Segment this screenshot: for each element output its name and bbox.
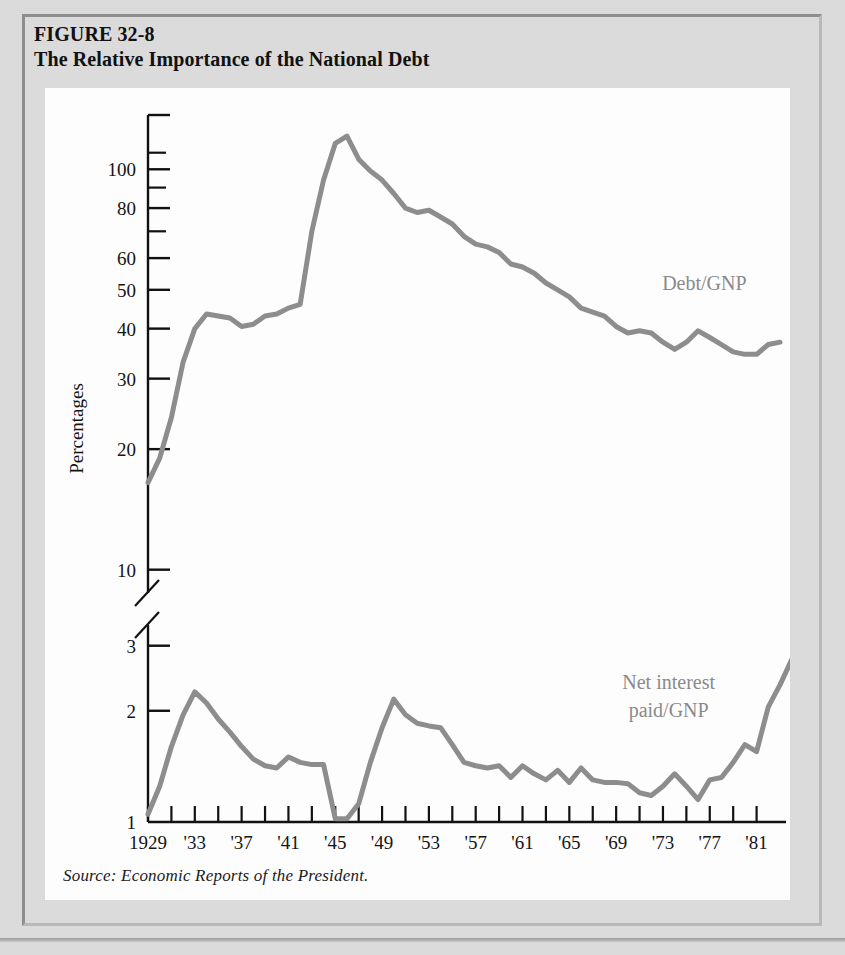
svg-text:10: 10 — [117, 560, 136, 581]
page-bottom-rule — [0, 938, 845, 942]
svg-text:20: 20 — [117, 439, 136, 460]
svg-text:'45: '45 — [324, 832, 346, 853]
svg-text:'37: '37 — [230, 832, 252, 853]
svg-text:2: 2 — [127, 701, 137, 722]
svg-text:3: 3 — [127, 636, 137, 657]
svg-text:100: 100 — [108, 159, 137, 180]
svg-text:'73: '73 — [652, 832, 674, 853]
svg-text:'77: '77 — [699, 832, 721, 853]
svg-text:'61: '61 — [511, 832, 533, 853]
svg-text:'65: '65 — [558, 832, 580, 853]
svg-text:'53: '53 — [418, 832, 440, 853]
svg-text:'49: '49 — [371, 832, 393, 853]
svg-text:50: 50 — [117, 280, 136, 301]
svg-text:80: 80 — [117, 198, 136, 219]
svg-text:'81: '81 — [745, 832, 767, 853]
svg-text:40: 40 — [117, 319, 136, 340]
annotation-layer: Debt/GNPNet interestpaid/GNP — [622, 272, 746, 722]
chart-svg: 10203040506080100123Percentages1929'33'3… — [45, 88, 790, 900]
svg-text:paid/GNP: paid/GNP — [629, 699, 709, 722]
svg-text:1929: 1929 — [129, 832, 167, 853]
svg-text:'33: '33 — [184, 832, 206, 853]
figure-title: The Relative Importance of the National … — [34, 47, 774, 72]
source-note: Source: Economic Reports of the Presiden… — [63, 866, 369, 886]
figure-caption: FIGURE 32-8 The Relative Importance of t… — [34, 22, 774, 72]
figure-number: FIGURE 32-8 — [34, 22, 774, 47]
svg-text:'41: '41 — [277, 832, 299, 853]
svg-text:Percentages: Percentages — [66, 383, 87, 474]
svg-text:Net interest: Net interest — [622, 671, 715, 693]
chart-panel: 10203040506080100123Percentages1929'33'3… — [45, 88, 790, 900]
page-background: FIGURE 32-8 The Relative Importance of t… — [0, 0, 845, 955]
svg-text:30: 30 — [117, 369, 136, 390]
svg-text:'69: '69 — [605, 832, 627, 853]
svg-text:Debt/GNP: Debt/GNP — [662, 272, 746, 294]
svg-text:'57: '57 — [464, 832, 486, 853]
svg-text:1: 1 — [127, 812, 137, 833]
svg-text:60: 60 — [117, 248, 136, 269]
